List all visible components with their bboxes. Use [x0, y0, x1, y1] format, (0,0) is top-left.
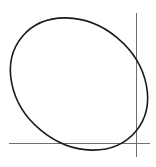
- diagram-canvas: [0, 0, 156, 167]
- ellipse: [0, 0, 156, 167]
